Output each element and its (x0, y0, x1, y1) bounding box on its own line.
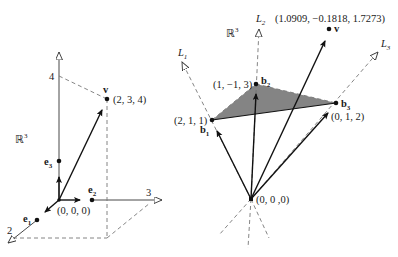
L2-label: L2 (255, 13, 266, 27)
space-label-right: ℝ3 (226, 26, 239, 39)
v-label-right: v (334, 23, 340, 34)
v-vector-right (251, 41, 325, 199)
x-tick-label: 2 (7, 225, 12, 236)
e3-point (57, 159, 62, 164)
z-tick-label: 4 (49, 71, 55, 82)
origin-label: (0, 0, 0) (57, 205, 91, 217)
b1-label: b1 (200, 124, 210, 138)
e1-label: e1 (23, 213, 32, 227)
e3-label: e3 (44, 156, 53, 170)
left-diagram: 4 3 2 v (2, 3, 4) (0, 0, 0) ℝ3 e3 e2 e1 (7, 52, 162, 243)
line-L3-extension (219, 199, 251, 235)
right-diagram: ℝ3 L1 L2 L3 (1.0909, −0.1818, 1.7273) v … (174, 13, 391, 248)
b3-label: b3 (341, 98, 351, 112)
L3-label: L3 (380, 38, 391, 52)
L1-label: L1 (177, 47, 187, 61)
y-tick-label: 3 (146, 187, 151, 198)
b1-point (210, 118, 215, 123)
v-vector (59, 110, 102, 200)
origin-label-right: (0, 0 ,0) (256, 194, 290, 206)
v-point (105, 97, 110, 102)
space-label: ℝ3 (15, 132, 28, 145)
v-point-right (327, 27, 332, 32)
v-coords-label: (2, 3, 4) (113, 94, 147, 106)
origin-point (57, 198, 61, 202)
v-coords-label-right: (1.0909, −0.1818, 1.7273) (275, 13, 386, 25)
e2-label: e2 (88, 184, 97, 198)
e1-point (35, 218, 40, 223)
b3-vector (251, 113, 328, 199)
b3-coords-label: (0, 1, 2) (331, 111, 365, 123)
z-guide-dashed (59, 76, 107, 99)
line-L2-extension (248, 199, 251, 248)
origin-point-right (249, 197, 253, 201)
e2-point (90, 198, 95, 203)
b3-point (334, 101, 339, 106)
diagram-canvas: 4 3 2 v (2, 3, 4) (0, 0, 0) ℝ3 e3 e2 e1 (0, 0, 398, 257)
b2-point (254, 82, 259, 87)
y-guide-dashed (107, 203, 150, 238)
b1-vector (217, 131, 251, 199)
b2-coords-label: (1, −1, 3) (213, 79, 253, 91)
v-label: v (103, 84, 109, 95)
